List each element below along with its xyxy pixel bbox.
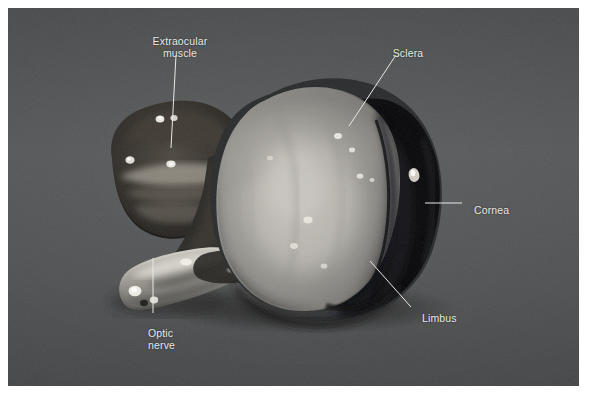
film-grain (8, 8, 579, 386)
label-sclera: Sclera (378, 48, 438, 60)
figure-plate: Extraocular muscle Sclera Cornea Limbus … (0, 0, 594, 398)
label-optic-nerve: Optic nerve (148, 328, 204, 351)
specimen-photograph: Extraocular muscle Sclera Cornea Limbus … (8, 8, 579, 386)
eyeball-specimen (8, 8, 579, 386)
label-cornea: Cornea (474, 205, 534, 217)
label-limbus: Limbus (422, 313, 482, 325)
label-extraocular-muscle: Extraocular muscle (134, 36, 226, 59)
